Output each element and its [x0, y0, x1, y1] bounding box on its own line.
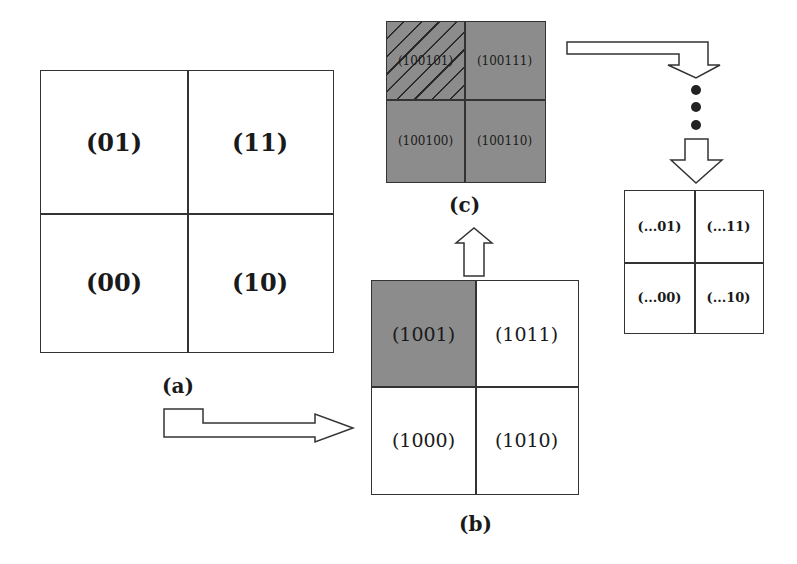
arrow-a-to-b-icon [164, 409, 353, 442]
arrow-c-to-final-icon [567, 42, 720, 78]
ellipsis-dot-icon [691, 120, 701, 130]
ellipsis-dot-icon [691, 102, 701, 112]
arrow-down-to-final-icon [671, 139, 722, 183]
ellipsis-dot-icon [691, 85, 701, 95]
arrow-b-to-c-icon [456, 228, 492, 276]
arrows-layer [0, 0, 797, 564]
